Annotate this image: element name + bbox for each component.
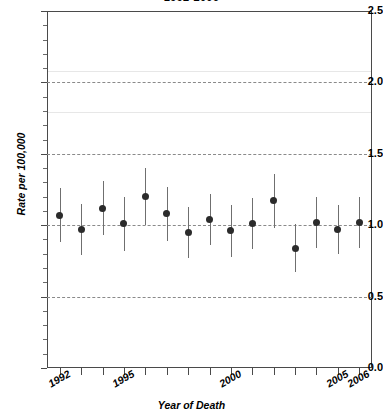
chart-root: 1992-2006 0.00.51.01.52.02.5 19921995200…: [0, 0, 383, 417]
data-point: [185, 229, 192, 236]
data-point: [292, 245, 299, 252]
data-series-layer: [0, 0, 383, 417]
x-axis-title: Year of Death: [0, 399, 383, 411]
data-point: [163, 210, 170, 217]
data-point: [227, 227, 234, 234]
data-point: [78, 226, 85, 233]
data-point: [142, 193, 149, 200]
data-point: [270, 197, 277, 204]
data-point: [334, 226, 341, 233]
data-point: [99, 205, 106, 212]
data-point: [249, 220, 256, 227]
data-point: [56, 212, 63, 219]
data-point: [313, 219, 320, 226]
data-point: [120, 220, 127, 227]
y-axis-title: Rate per 100,000: [15, 109, 27, 239]
data-point: [356, 219, 363, 226]
data-point: [206, 216, 213, 223]
